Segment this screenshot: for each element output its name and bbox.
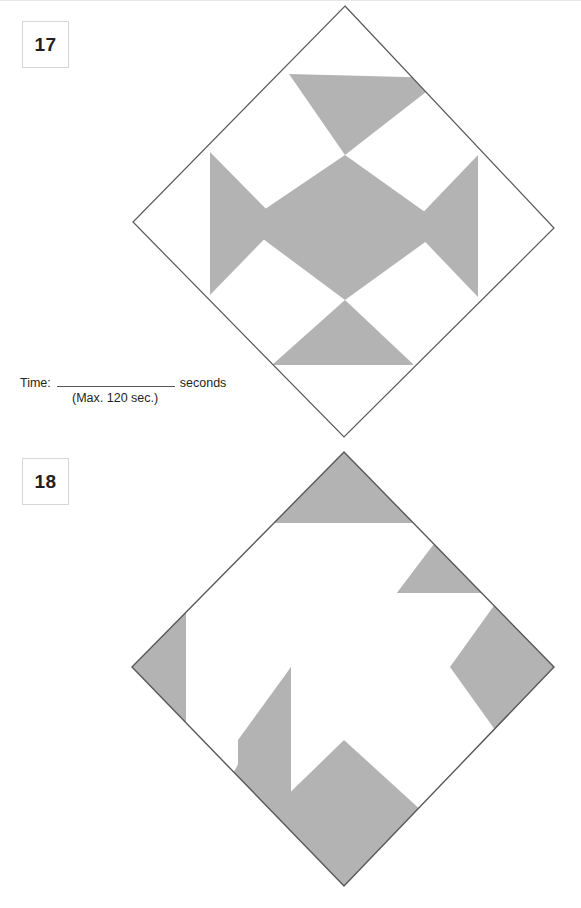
time-entry-17: Time: seconds (Max. 120 sec.): [20, 375, 280, 405]
time-unit-17: seconds: [180, 376, 227, 390]
worksheet-page: 17: [0, 0, 581, 908]
worksheet-item-18: 18: [0, 445, 581, 908]
square-bottom: [270, 740, 423, 886]
triangle-left: [210, 152, 280, 295]
diamond-17-gray-shapes: [210, 74, 478, 365]
triangle-upper-right-main: [397, 523, 556, 593]
time-max-note-17: (Max. 120 sec.): [20, 391, 280, 405]
worksheet-item-17: 17: [0, 0, 581, 445]
diamond-pattern-figure-18: [0, 445, 581, 908]
triangle-bottom-center: [272, 300, 414, 365]
triangle-right: [410, 155, 478, 297]
time-input-blank-17[interactable]: [57, 375, 175, 387]
time-label-17: Time:: [20, 376, 51, 390]
square-right: [450, 593, 554, 741]
triangle-top: [238, 452, 450, 523]
diamond-18-gray-shapes: [132, 452, 556, 886]
